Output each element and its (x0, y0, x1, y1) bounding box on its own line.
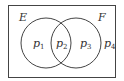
region-p2: p2 (56, 37, 68, 51)
region-p4: p4 (104, 37, 116, 51)
set-e-label: E (18, 11, 27, 24)
set-f-label: F (97, 11, 106, 24)
region-p1: p1 (33, 37, 45, 51)
region-p3: p3 (80, 37, 92, 51)
venn-diagram: E F p1 p2 p3 p4 (0, 0, 124, 81)
